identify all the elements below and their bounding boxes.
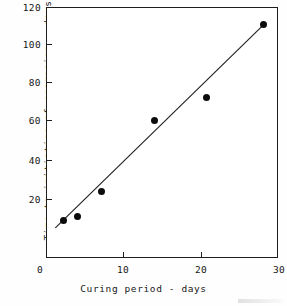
y-tick-120 (46, 7, 52, 8)
x-tick-20 (201, 252, 202, 258)
x-tick-10 (123, 252, 124, 258)
chart-figure: Time to initiation of corrosion - days 1… (0, 0, 287, 306)
data-point (74, 213, 81, 220)
scan-artifact (238, 299, 282, 303)
y-tick-80 (46, 82, 52, 83)
plot-frame (46, 7, 278, 258)
y-tick-label-20: 20 (1, 194, 41, 205)
y-tick-20 (46, 199, 52, 200)
data-point (151, 117, 158, 124)
y-tick-40 (46, 160, 52, 161)
x-tick-label-20: 20 (181, 264, 221, 275)
x-tick-label-30: 30 (259, 264, 287, 275)
y-tick-label-120: 120 (1, 2, 41, 13)
data-point (203, 94, 210, 101)
x-axis-title: Curing period - days (0, 283, 287, 294)
y-tick-label-60: 60 (1, 115, 41, 126)
y-tick-60 (46, 120, 52, 121)
data-point (260, 21, 267, 28)
y-tick-label-80: 80 (1, 77, 41, 88)
x-tick-label-10: 10 (103, 264, 143, 275)
y-tick-label-40: 40 (1, 155, 41, 166)
data-point (60, 217, 67, 224)
y-tick-label-100: 100 (1, 39, 41, 50)
x-tick-label-0: 0 (20, 264, 60, 275)
y-tick-100 (46, 44, 52, 45)
